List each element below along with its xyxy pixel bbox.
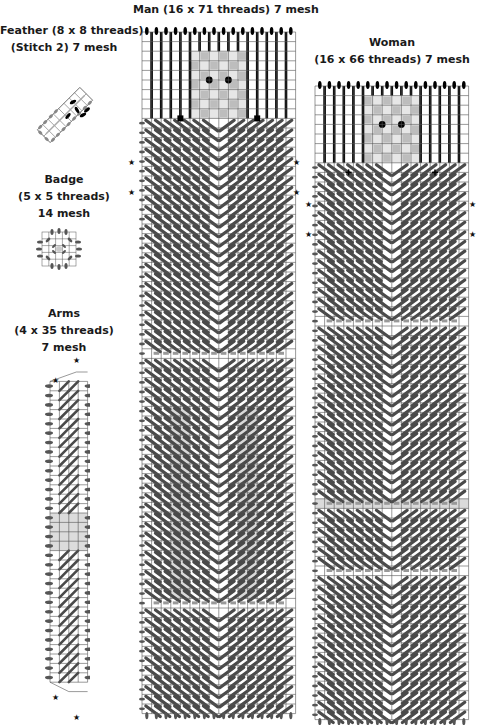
arms-mesh: 7 mesh xyxy=(0,339,128,356)
man-title: Man (16 x 71 threads) 7 mesh xyxy=(133,1,313,18)
badge-title: Badge xyxy=(0,171,128,188)
star-marker-icon: ★ xyxy=(293,159,300,167)
feather-subtitle: (Stitch 2) 7 mesh xyxy=(0,39,128,56)
man-chart xyxy=(138,24,302,724)
feather-label: Feather (8 x 8 threads) (Stitch 2) 7 mes… xyxy=(0,22,128,56)
star-marker-icon: ★ xyxy=(52,377,59,385)
feather-chart xyxy=(25,80,105,150)
star-marker-icon: ★ xyxy=(305,201,312,209)
woman-title: Woman xyxy=(305,34,479,51)
man-label: Man (16 x 71 threads) 7 mesh xyxy=(133,1,313,18)
star-marker-icon: ★ xyxy=(469,201,476,209)
arms-subtitle: (4 x 35 threads) xyxy=(0,322,128,339)
arms-title: Arms xyxy=(0,305,128,322)
woman-chart xyxy=(311,78,475,725)
star-marker-icon: ★ xyxy=(469,231,476,239)
arms-label: Arms (4 x 35 threads) 7 mesh xyxy=(0,305,128,356)
star-marker-icon: ★ xyxy=(73,714,80,722)
woman-subtitle: (16 x 66 threads) 7 mesh xyxy=(305,51,479,68)
feather-title: Feather (8 x 8 threads) xyxy=(0,22,128,39)
star-marker-icon: ★ xyxy=(305,231,312,239)
badge-subtitle: (5 x 5 threads) xyxy=(0,188,128,205)
star-marker-icon: ★ xyxy=(52,694,59,702)
star-marker-icon: ★ xyxy=(73,357,80,365)
arms-chart xyxy=(40,362,90,702)
badge-mesh: 14 mesh xyxy=(0,205,128,222)
badge-chart xyxy=(34,228,84,270)
badge-label: Badge (5 x 5 threads) 14 mesh xyxy=(0,171,128,222)
star-marker-icon: ★ xyxy=(293,189,300,197)
star-marker-icon: ★ xyxy=(128,159,135,167)
woman-label: Woman (16 x 66 threads) 7 mesh xyxy=(305,34,479,68)
star-marker-icon: ★ xyxy=(128,189,135,197)
